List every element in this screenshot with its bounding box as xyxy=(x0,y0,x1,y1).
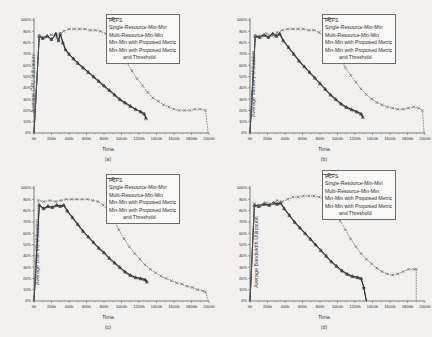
svg-text:200h: 200h xyxy=(47,304,57,309)
svg-text:400h: 400h xyxy=(64,136,74,141)
svg-text:90%: 90% xyxy=(23,197,32,202)
legend-continuation: and Threshold xyxy=(325,54,392,61)
svg-text:0h: 0h xyxy=(32,136,37,141)
svg-text:90%: 90% xyxy=(239,29,248,34)
svg-text:1800h: 1800h xyxy=(186,304,198,309)
legend-label: Single-Resource-Min-Min xyxy=(325,180,382,187)
legend-item: Min-Min with Proposed Metric xyxy=(325,39,392,46)
svg-text:70%: 70% xyxy=(23,219,32,224)
legend-label: Multi-Resource-Min-Min xyxy=(325,32,379,39)
svg-text:30%: 30% xyxy=(23,97,32,102)
svg-text:800h: 800h xyxy=(315,304,325,309)
svg-text:1200h: 1200h xyxy=(349,136,361,141)
legend-label: Multi-Resource-Min-Min xyxy=(109,32,163,39)
svg-text:20%: 20% xyxy=(239,276,248,281)
svg-text:30%: 30% xyxy=(239,265,248,270)
svg-text:400h: 400h xyxy=(280,136,290,141)
svg-text:600h: 600h xyxy=(298,304,308,309)
legend-label: Min-Min with Proposed Metric xyxy=(109,199,176,206)
legend-item: Multi-Resource-Min-Min xyxy=(109,192,176,199)
svg-text:0h: 0h xyxy=(248,304,253,309)
svg-text:0h: 0h xyxy=(248,136,253,141)
legend-label: Min-Min with Proposed Metric xyxy=(325,47,392,54)
legend-item: Single-Resource-Min-Min xyxy=(325,180,392,187)
svg-text:50%: 50% xyxy=(23,74,32,79)
svg-text:800h: 800h xyxy=(315,136,325,141)
legend-item: Min-Min with Proposed Metric xyxy=(325,203,392,210)
svg-text:80%: 80% xyxy=(239,40,248,45)
svg-text:1200h: 1200h xyxy=(133,304,145,309)
svg-text:60%: 60% xyxy=(23,231,32,236)
legend-item: Min-Min with Proposed Metric xyxy=(109,199,176,206)
svg-text:200h: 200h xyxy=(263,136,273,141)
legend-item: Min-Min with Proposed Metric xyxy=(109,207,176,214)
svg-text:30%: 30% xyxy=(239,97,248,102)
svg-text:20%: 20% xyxy=(239,108,248,113)
svg-text:400h: 400h xyxy=(64,304,74,309)
svg-text:200h: 200h xyxy=(47,136,57,141)
svg-text:100%: 100% xyxy=(237,17,248,22)
svg-text:90%: 90% xyxy=(239,197,248,202)
legend-marker-star-marker xyxy=(323,171,335,178)
svg-text:80%: 80% xyxy=(239,208,248,213)
svg-text:10%: 10% xyxy=(239,287,248,292)
panel-d-caption: (d) xyxy=(216,324,432,330)
svg-text:1000h: 1000h xyxy=(116,136,128,141)
legend-item: FCFS xyxy=(325,17,392,24)
legend-item: Min-Min with Proposed Metric xyxy=(109,47,176,54)
svg-text:40%: 40% xyxy=(239,85,248,90)
panel-b-legend: FCFSSingle-Resource-Min-MinMulti-Resourc… xyxy=(322,14,396,64)
svg-text:60%: 60% xyxy=(23,63,32,68)
svg-text:600h: 600h xyxy=(298,136,308,141)
svg-text:100%: 100% xyxy=(237,185,248,190)
svg-text:0%: 0% xyxy=(241,298,247,303)
svg-text:10%: 10% xyxy=(239,119,248,124)
legend-item: Single-Resource-Min-Min xyxy=(109,184,176,191)
panel-a: Average CPU Utilization 0%10%20%30%40%50… xyxy=(0,0,216,168)
legend-item: Single-Resource-Min-Min xyxy=(109,24,176,31)
legend-item: Multi-Resource-Min-Min xyxy=(325,32,392,39)
panel-d-x-axis-label: Time xyxy=(216,314,432,320)
svg-text:2000h: 2000h xyxy=(203,136,215,141)
legend-label: Single-Resource-Min-Min xyxy=(109,184,166,191)
panel-d: Average Bandwidth Utilization 0%10%20%30… xyxy=(216,168,432,336)
svg-text:1800h: 1800h xyxy=(402,304,414,309)
legend-item: Multi-Resource-Min-Min xyxy=(109,32,176,39)
svg-text:50%: 50% xyxy=(23,242,32,247)
legend-item: Min-Min with Proposed Metric xyxy=(109,39,176,46)
svg-text:20%: 20% xyxy=(23,276,32,281)
svg-text:1400h: 1400h xyxy=(151,304,163,309)
svg-text:50%: 50% xyxy=(239,242,248,247)
svg-text:2000h: 2000h xyxy=(419,304,431,309)
svg-text:70%: 70% xyxy=(23,51,32,56)
svg-text:100%: 100% xyxy=(21,17,32,22)
legend-marker-star-marker xyxy=(107,175,119,182)
svg-text:2000h: 2000h xyxy=(419,136,431,141)
svg-text:1400h: 1400h xyxy=(367,304,379,309)
svg-text:10%: 10% xyxy=(23,287,32,292)
panel-a-x-axis-label: Time xyxy=(0,146,216,152)
svg-text:70%: 70% xyxy=(239,51,248,56)
legend-item: Single-Resource-Min-Min xyxy=(325,24,392,31)
legend-label: Min-Min with Proposed Metric xyxy=(325,195,392,202)
legend-item: Multi-Resource-Min-Min xyxy=(325,188,392,195)
svg-text:1400h: 1400h xyxy=(367,136,379,141)
legend-marker-star-marker xyxy=(323,15,335,22)
svg-text:1000h: 1000h xyxy=(116,304,128,309)
legend-label: Single-Resource-Min-Min xyxy=(109,24,166,31)
svg-text:10%: 10% xyxy=(23,119,32,124)
panel-b-caption: (b) xyxy=(216,156,432,162)
svg-text:60%: 60% xyxy=(239,63,248,68)
svg-text:0%: 0% xyxy=(25,130,31,135)
svg-text:40%: 40% xyxy=(23,85,32,90)
svg-text:1000h: 1000h xyxy=(332,136,344,141)
legend-label: Min-Min with Proposed Metric xyxy=(109,47,176,54)
legend-label: Multi-Resource-Min-Min xyxy=(325,188,379,195)
svg-text:600h: 600h xyxy=(82,136,92,141)
svg-text:60%: 60% xyxy=(239,231,248,236)
panel-c-x-axis-label: Time xyxy=(0,314,216,320)
svg-text:30%: 30% xyxy=(23,265,32,270)
svg-text:1800h: 1800h xyxy=(186,136,198,141)
legend-label: Multi-Resource-Min-Min xyxy=(109,192,163,199)
panel-c-legend: FCFSSingle-Resource-Min-MinMulti-Resourc… xyxy=(106,174,180,224)
